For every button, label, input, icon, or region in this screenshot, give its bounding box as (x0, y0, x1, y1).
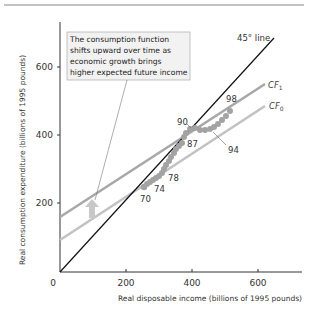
label-98: 98 (226, 94, 237, 104)
label-74: 74 (154, 184, 165, 194)
origin-label: 0 (50, 278, 56, 288)
label-70: 70 (140, 194, 151, 204)
label-90: 90 (177, 117, 188, 127)
x-tick-600: 600 (249, 278, 266, 288)
y-tick-400: 400 (36, 130, 53, 140)
annotation-line-1: The consumption function (69, 35, 169, 44)
y-axis: 600 400 200 Real consumption expenditure… (18, 22, 60, 272)
y-tick-600: 600 (36, 62, 53, 72)
cf1-label: CF1 (268, 80, 283, 91)
y-tick-200: 200 (36, 198, 53, 208)
label-78: 78 (168, 173, 179, 183)
annotation-line-2: shifts upward over time as (70, 46, 171, 55)
cf0-label: CF0 (269, 101, 284, 112)
x-tick-200: 200 (117, 278, 134, 288)
label-94: 94 (228, 145, 239, 155)
y-axis-label: Real consumption expenditure (billions o… (18, 55, 27, 265)
annotation-line-4: higher expected future income (70, 68, 188, 77)
consumption-chart: 600 400 200 Real consumption expenditure… (0, 0, 314, 317)
annotation-line-3: economic growth brings (70, 57, 162, 66)
annotation-pointer (95, 80, 127, 200)
label-87: 87 (187, 139, 198, 149)
x-tick-400: 400 (183, 278, 200, 288)
x-axis: 0 200 400 600 Real disposable income (bi… (50, 269, 302, 303)
line-45-label: 45° line (237, 33, 270, 43)
x-axis-label: Real disposable income (billions of 1995… (118, 294, 302, 303)
